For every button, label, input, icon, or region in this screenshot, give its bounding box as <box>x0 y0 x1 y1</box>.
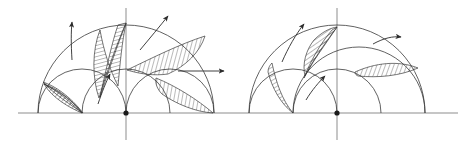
diagram-canvas <box>0 0 463 142</box>
right-lune-right-flat <box>355 63 418 76</box>
arrow-up-right-diagonal <box>140 16 168 50</box>
left-center-dot <box>123 110 128 115</box>
left-lune-lower-right <box>156 78 213 113</box>
left-lune-upper-right <box>127 36 205 75</box>
left-lune-lower-left-fill <box>43 82 83 113</box>
left-construction <box>18 8 232 140</box>
arrow-up-left <box>71 22 72 60</box>
figure-root <box>0 0 463 142</box>
arrow-up-left-diagonal <box>282 24 304 62</box>
right-construction <box>232 8 458 140</box>
right-center-dot <box>334 110 339 115</box>
